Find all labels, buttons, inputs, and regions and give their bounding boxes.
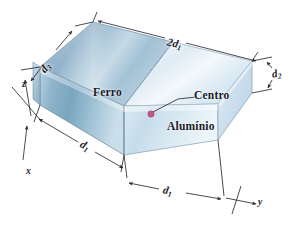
dim-line-d1R-a <box>129 183 159 189</box>
axis-y-line <box>226 198 256 204</box>
dim-line-d1L-b <box>95 152 123 168</box>
axis-y-tick <box>232 186 241 214</box>
axis-label-z: z <box>22 79 26 89</box>
dim-line-d2-lower <box>268 80 272 88</box>
axis-x-line <box>23 126 27 160</box>
ext-line-d1R-start <box>124 155 127 178</box>
block-diagram-svg <box>0 0 296 236</box>
dimension-label-2d1: 2d1 <box>166 36 184 53</box>
ext-line-d2-top <box>252 57 272 61</box>
ext-line-d1R-end <box>218 140 224 196</box>
figure-container: Ferro Alumínio Centro 2d1 d3 d2 d1 d1 z … <box>0 0 296 236</box>
material-label-ferro: Ferro <box>93 86 122 98</box>
centro-point-dot <box>148 111 154 117</box>
axis-label-x: x <box>26 166 31 176</box>
axis-label-y: y <box>258 197 262 207</box>
center-label-centro: Centro <box>194 89 229 101</box>
dim-line-d1R-b <box>186 193 221 199</box>
ext-line-2d1-start <box>93 12 97 22</box>
material-label-aluminio: Alumínio <box>167 120 215 132</box>
ext-line-d1L-end <box>121 155 124 172</box>
ext-line-d2-bottom <box>252 89 272 93</box>
